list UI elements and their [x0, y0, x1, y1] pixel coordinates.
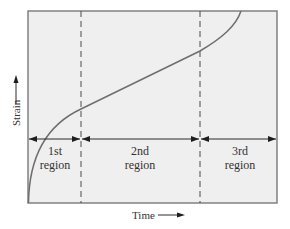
region-1-label-line1: 1st	[48, 144, 63, 158]
y-axis-arrow-icon	[14, 75, 19, 104]
x-axis-arrow-icon	[158, 213, 185, 218]
region-2-label-line2: region	[125, 158, 156, 172]
plot-area	[28, 11, 277, 203]
region-1-label-line2: region	[40, 158, 71, 172]
region-3-label-line1: 3rd	[232, 144, 248, 158]
region-3-label-line2: region	[225, 158, 256, 172]
x-axis-label: Time	[132, 209, 155, 221]
creep-curve-diagram: 1st region 2nd region 3rd region Strain …	[0, 0, 290, 229]
region-2-label-line1: 2nd	[131, 144, 149, 158]
